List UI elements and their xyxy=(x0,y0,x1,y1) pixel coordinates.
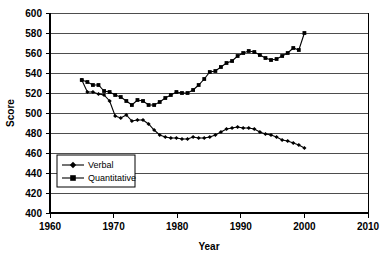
y-tick-label: 600 xyxy=(25,8,42,19)
y-axis-title: Score xyxy=(5,99,16,127)
x-axis-title: Year xyxy=(198,241,219,252)
y-tick-label: 440 xyxy=(25,168,42,179)
x-tick-label: 2010 xyxy=(357,221,380,232)
data-point-square xyxy=(158,100,162,104)
y-tick-label: 540 xyxy=(25,68,42,79)
data-point-square xyxy=(124,99,128,103)
line-chart: 600 580 560 540 520 500 480 460 440 420 … xyxy=(0,0,389,258)
y-tick-label: 520 xyxy=(25,88,42,99)
data-point-square xyxy=(80,78,84,82)
y-tick-label: 460 xyxy=(25,148,42,159)
data-point-square xyxy=(180,91,184,95)
data-point-square xyxy=(113,93,117,97)
data-point-square xyxy=(191,88,195,92)
data-point-square xyxy=(130,103,134,107)
data-point-square xyxy=(258,53,262,57)
data-point-square xyxy=(236,54,240,58)
square-icon xyxy=(70,175,76,181)
x-tick-label: 1970 xyxy=(102,221,125,232)
y-tick-label: 580 xyxy=(25,28,42,39)
data-point-square xyxy=(91,83,95,87)
chart-container: 600 580 560 540 520 500 480 460 440 420 … xyxy=(0,0,389,258)
chart-legend[interactable]: Verbal Quantitative xyxy=(57,155,136,187)
legend-label-verbal: Verbal xyxy=(88,160,114,170)
data-point-square xyxy=(252,50,256,54)
data-point-square xyxy=(269,58,273,62)
data-point-square xyxy=(163,96,167,100)
y-tick-label: 480 xyxy=(25,128,42,139)
legend-label-quantitative: Quantitative xyxy=(88,173,136,183)
data-point-square xyxy=(225,61,229,65)
chart-background xyxy=(0,0,389,258)
data-point-square xyxy=(147,103,151,107)
data-point-square xyxy=(303,31,307,35)
data-point-square xyxy=(291,46,295,50)
x-tick-label: 2000 xyxy=(293,221,316,232)
data-point-square xyxy=(102,89,106,93)
x-tick-label: 1960 xyxy=(39,221,62,232)
data-point-square xyxy=(108,90,112,94)
data-point-square xyxy=(85,80,89,84)
data-point-square xyxy=(136,98,140,102)
data-point-square xyxy=(175,90,179,94)
y-tick-label: 560 xyxy=(25,48,42,59)
data-point-square xyxy=(230,59,234,63)
data-point-square xyxy=(202,77,206,81)
y-tick-label: 500 xyxy=(25,108,42,119)
y-tick-label: 420 xyxy=(25,188,42,199)
data-point-square xyxy=(264,56,268,60)
data-point-square xyxy=(286,51,290,55)
y-tick-label: 400 xyxy=(25,208,42,219)
data-point-square xyxy=(275,57,279,61)
x-tick-label: 1980 xyxy=(166,221,189,232)
data-point-square xyxy=(119,95,123,99)
data-point-square xyxy=(197,83,201,87)
data-point-square xyxy=(97,83,101,87)
data-point-square xyxy=(141,99,145,103)
data-point-square xyxy=(297,48,301,52)
data-point-square xyxy=(219,65,223,69)
x-tick-label: 1990 xyxy=(230,221,253,232)
data-point-square xyxy=(213,69,217,73)
data-point-square xyxy=(280,54,284,58)
data-point-square xyxy=(208,70,212,74)
data-point-square xyxy=(152,103,156,107)
data-point-square xyxy=(247,49,251,53)
data-point-square xyxy=(186,91,190,95)
data-point-square xyxy=(241,51,245,55)
data-point-square xyxy=(169,93,173,97)
